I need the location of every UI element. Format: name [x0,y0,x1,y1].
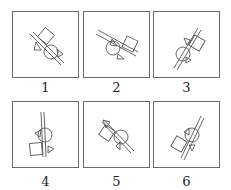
rod-circle-square-icon [13,12,78,77]
panel-label: 3 [153,81,220,95]
panel-2 [83,11,150,78]
panel-label: 2 [83,81,150,95]
panel-3 [153,11,220,78]
rod-circle-square-icon [84,12,149,77]
panel-label: 6 [153,175,220,189]
panel-5 [83,101,150,168]
rod-circle-square-icon [154,102,219,167]
panel-label: 1 [12,81,79,95]
panel-label: 4 [12,175,79,189]
rod-circle-square-icon [84,102,149,167]
rod-circle-square-icon [13,102,78,167]
panel-1 [12,11,79,78]
panel-4 [12,101,79,168]
panel-6 [153,101,220,168]
panel-label: 5 [83,175,150,189]
rod-circle-square-icon [154,12,219,77]
